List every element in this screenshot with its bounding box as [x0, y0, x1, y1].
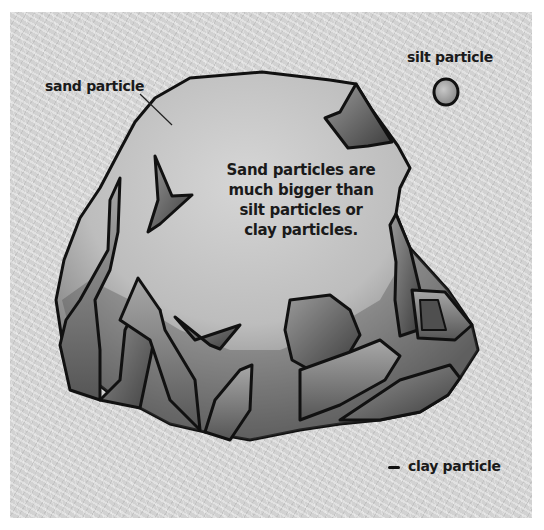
clay-particle-label: clay particle — [408, 458, 501, 474]
silt-particle — [434, 79, 458, 105]
silt-particle-label: silt particle — [407, 49, 493, 65]
caption-line: much bigger than — [206, 180, 396, 200]
caption-line: clay particles. — [206, 220, 396, 240]
sand-particle-label: sand particle — [45, 78, 144, 94]
caption-text: Sand particles are much bigger than silt… — [206, 160, 396, 240]
clay-particle — [388, 466, 400, 469]
caption-line: silt particles or — [206, 200, 396, 220]
caption-line: Sand particles are — [206, 160, 396, 180]
sand-particle-rock — [56, 72, 478, 440]
